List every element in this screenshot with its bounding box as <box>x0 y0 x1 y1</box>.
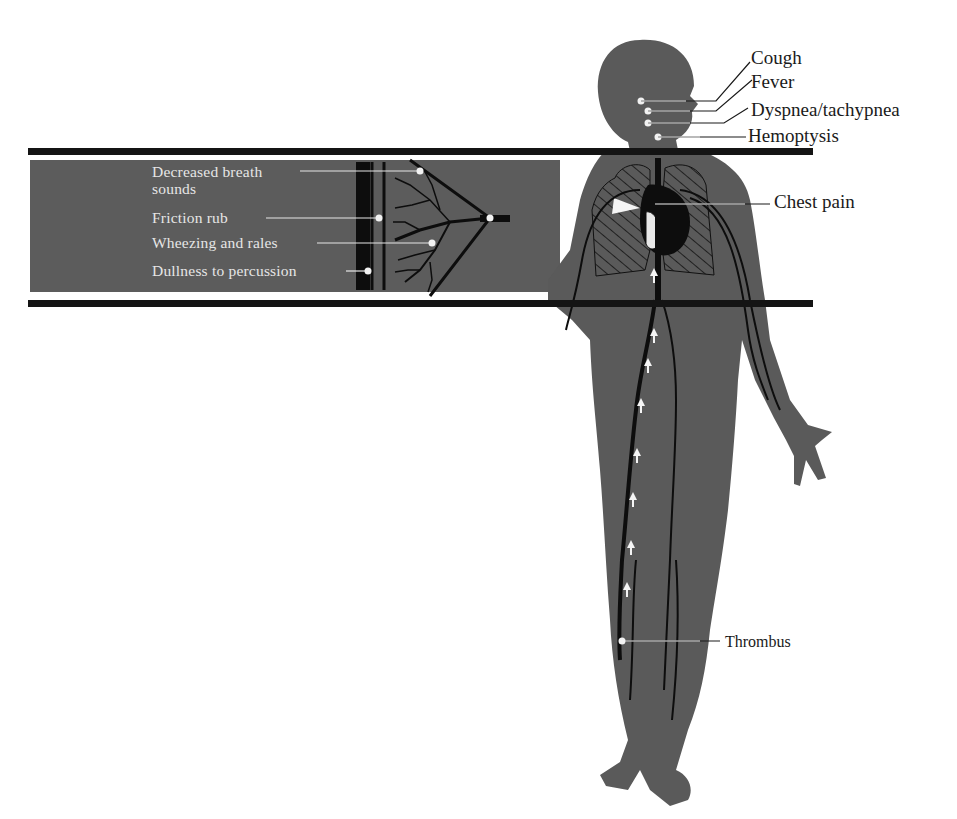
label-hemoptysis: Hemoptysis <box>748 126 839 145</box>
label-dullness-to-percussion: Dullness to percussion <box>152 263 297 279</box>
illustration-canvas <box>0 0 957 819</box>
label-fever: Fever <box>751 72 794 91</box>
pulmonary-embolism-diagram: Cough Fever Dyspnea/tachypnea Hemoptysis… <box>0 0 957 819</box>
label-thrombus: Thrombus <box>725 634 791 650</box>
extra-markers <box>619 638 626 645</box>
label-cough: Cough <box>751 48 802 67</box>
label-decreased-breath-sounds-line1: Decreased breath <box>152 164 262 180</box>
label-friction-rub: Friction rub <box>152 210 228 226</box>
label-wheezing-and-rales: Wheezing and rales <box>152 235 278 251</box>
label-decreased-breath-sounds-line2: sounds <box>152 181 196 197</box>
label-dyspnea-tachypnea: Dyspnea/tachypnea <box>751 100 900 119</box>
label-chest-pain: Chest pain <box>774 192 855 211</box>
